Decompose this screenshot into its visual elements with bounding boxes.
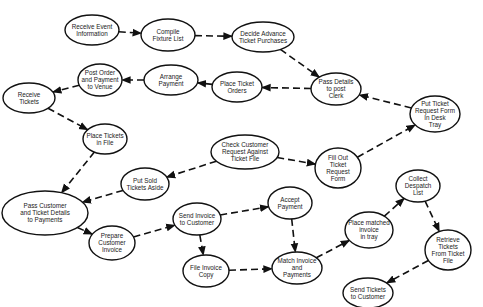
node-label: Post Order (85, 69, 115, 76)
node-label: and Ticket Details (20, 209, 70, 216)
edge-receive_tickets-to-place_tickets_file (48, 108, 88, 130)
node-label: Payment (159, 80, 184, 88)
node-collect_despatch: CollectDespatchList (396, 170, 440, 202)
nodes-layer: Receive EventInformationCompileFixture L… (2, 15, 471, 307)
node-label: Orders (227, 87, 246, 94)
node-label: Pass Details (319, 78, 354, 85)
node-label: to Payments (28, 216, 63, 224)
edge-collect_despatch-to-retrieve_tickets (425, 201, 439, 231)
node-match_invoice: Match InvoiceandPayments (272, 252, 322, 284)
node-label: Send Invoice (179, 212, 216, 219)
node-label: Form (331, 175, 346, 182)
node-send_tickets: Send Ticketsto Customer (343, 278, 393, 307)
edge-pass_details_clerk-to-place_ticket_orders (262, 88, 311, 89)
edge-place_tickets_file-to-pass_customer (62, 152, 95, 193)
node-label: Receive Event (72, 23, 113, 30)
edge-check_customer-to-fill_out_form (277, 158, 315, 165)
edge-post_order-to-receive_tickets (53, 85, 79, 92)
node-pass_customer: Pass Customerand Ticket Detailsto Paymen… (2, 191, 88, 235)
edge-decide_advance-to-pass_details_clerk (280, 49, 319, 77)
node-label: Fill Out (328, 154, 348, 161)
node-label: Retrieve (436, 236, 460, 243)
node-accept_payment: AcceptPayment (268, 187, 312, 219)
node-place_ticket_orders: Place TicketOrders (212, 72, 262, 102)
node-arrange_payment: ArrangePayment (144, 65, 198, 95)
node-fill_out_form: Fill OutTicketRequestForm (315, 148, 361, 188)
edge-put_ticket_request-to-pass_details_clerk (359, 95, 411, 108)
node-label: File (443, 257, 454, 264)
edge-match_invoice-to-place_matched (316, 240, 349, 257)
node-label: to Customer (351, 293, 385, 300)
node-place_tickets_file: Place Ticketsin File (83, 124, 127, 154)
edge-file_invoice-to-match_invoice (229, 269, 272, 270)
node-label: Invoice (102, 246, 122, 253)
edge-pass_customer-to-prepare_invoice (77, 228, 92, 235)
edge-prepare_invoice-to-send_invoice (134, 225, 175, 237)
node-label: Clerk (329, 92, 345, 99)
node-label: Copy (199, 271, 215, 279)
node-label: Tickets Aside (127, 184, 164, 191)
node-label: Collect (408, 175, 427, 182)
node-label: File Invoice (190, 264, 222, 271)
node-label: Tray (429, 121, 442, 129)
node-label: and (292, 264, 303, 271)
node-label: invoice (359, 226, 379, 233)
node-label: Decide Advance (240, 30, 286, 37)
node-label: From Ticket (432, 250, 465, 257)
node-retrieve_tickets: RetrieveTicketsFrom TicketFile (425, 230, 471, 270)
node-label: Tickets (19, 98, 39, 105)
node-label: Put Sold (133, 177, 157, 184)
node-label: Ticket Purchases (239, 37, 287, 44)
edge-place_ticket_orders-to-arrange_payment (198, 83, 213, 85)
edge-send_invoice-to-accept_payment (220, 207, 268, 215)
edge-fill_out_form-to-put_ticket_request (357, 125, 415, 157)
activity-diagram: Receive EventInformationCompileFixture L… (0, 0, 483, 307)
node-check_customer: Check CustomerRequest AgainstTicket File (211, 135, 279, 169)
node-pass_details_clerk: Pass Detailsto postClerk (311, 73, 361, 105)
node-label: Information (76, 30, 108, 37)
edge-receive_event-to-compile_fixture (119, 32, 141, 33)
node-place_matched: Place matchedinvoicein tray (345, 212, 393, 248)
node-label: Send Tickets (350, 286, 386, 293)
node-label: Customer (98, 239, 125, 246)
edge-send_invoice-to-file_invoice (200, 235, 204, 255)
node-receive_tickets: ReceiveTickets (3, 83, 55, 113)
node-label: Put Ticket (421, 100, 449, 107)
node-compile_fixture: CompileFixture List (141, 19, 195, 51)
node-label: Place Ticket (220, 80, 254, 87)
edge-put_sold_aside-to-pass_customer (82, 190, 123, 202)
node-label: to Venue (88, 83, 113, 90)
node-post_order: Post Orderand Paymentto Venue (78, 64, 122, 96)
node-label: Fixture List (153, 35, 184, 42)
edge-check_customer-to-put_sold_aside (167, 161, 217, 177)
node-label: In Desk (424, 114, 446, 121)
edge-place_matched-to-collect_despatch (384, 198, 404, 216)
node-put_sold_aside: Put SoldTickets Aside (121, 168, 169, 200)
node-label: Payment (278, 203, 303, 211)
node-label: Ticket File (231, 155, 260, 162)
node-label: Place Tickets (86, 132, 123, 139)
node-label: Tickets (438, 243, 458, 250)
node-label: Pass Customer (23, 202, 66, 209)
node-label: Payments (283, 271, 311, 279)
node-label: Place matched (348, 219, 390, 226)
node-label: Check Customer (222, 141, 269, 148)
node-label: to Customer (180, 219, 214, 226)
node-prepare_invoice: PrepareCustomerInvoice (89, 226, 135, 260)
node-send_invoice: Send Invoiceto Customer (173, 203, 221, 235)
edge-retrieve_tickets-to-send_tickets (387, 261, 429, 284)
node-file_invoice: File InvoiceCopy (183, 255, 229, 287)
node-label: in File (97, 139, 114, 146)
node-label: Receive (18, 91, 41, 98)
node-decide_advance: Decide AdvanceTicket Purchases (232, 22, 294, 52)
edge-accept_payment-to-match_invoice (292, 219, 296, 252)
node-label: Ticket (330, 161, 347, 168)
node-receive_event: Receive EventInformation (65, 15, 119, 45)
node-label: Match Invoice (278, 257, 317, 264)
node-put_ticket_request: Put TicketRequest FormIn DeskTray (410, 96, 460, 132)
edge-compile_fixture-to-decide_advance (195, 36, 232, 37)
node-label: List (413, 189, 423, 196)
node-label: in tray (360, 233, 378, 241)
